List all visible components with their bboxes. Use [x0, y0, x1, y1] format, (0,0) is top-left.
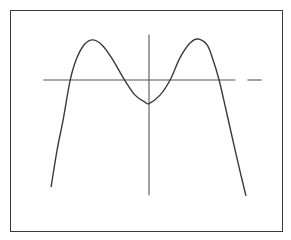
function-plot	[0, 0, 291, 240]
